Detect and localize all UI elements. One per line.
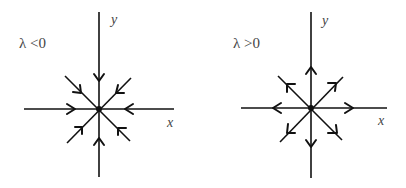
x-axis-label: x bbox=[166, 115, 174, 130]
condition-label: λ <0 bbox=[19, 35, 46, 51]
phase-portrait-sink: λ <0 y x bbox=[19, 12, 174, 177]
arrow-se-icon bbox=[328, 125, 337, 133]
equilibrium-point bbox=[308, 105, 314, 111]
y-axis-label: y bbox=[320, 13, 329, 28]
condition-label: λ >0 bbox=[233, 35, 260, 51]
x-axis-label: x bbox=[377, 113, 385, 128]
arrow-ne-icon bbox=[328, 83, 336, 91]
equilibrium-point bbox=[96, 106, 102, 112]
y-axis-label: y bbox=[109, 12, 118, 27]
phase-portrait-source: λ >0 y x bbox=[233, 12, 387, 178]
